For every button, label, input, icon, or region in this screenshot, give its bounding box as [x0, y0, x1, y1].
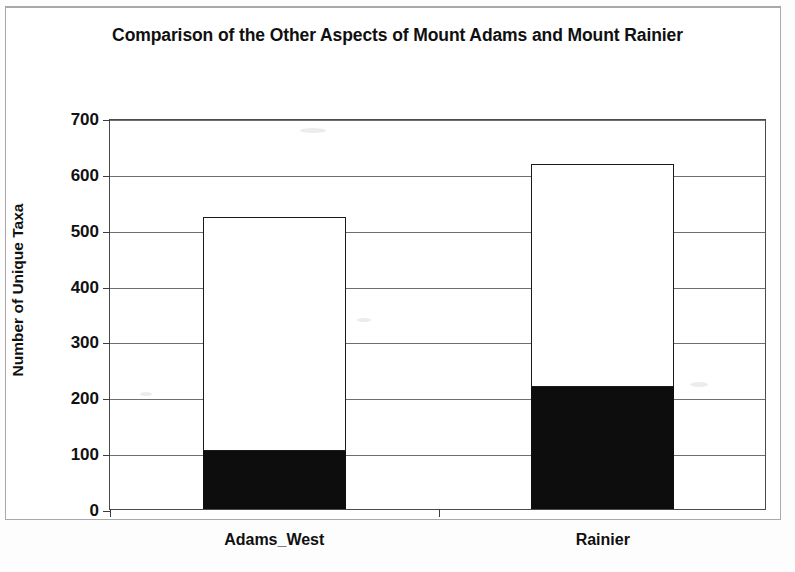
y-tick-label: 100 — [71, 445, 99, 465]
y-tick-mark — [103, 232, 110, 233]
page-title: Comparison of the Other Aspects of Mount… — [40, 25, 755, 46]
y-tick-mark — [103, 176, 110, 177]
y-tick-mark — [103, 343, 110, 344]
y-tick-label: 200 — [71, 389, 99, 409]
y-tick-mark — [103, 120, 110, 121]
bar-segment-lower-segment[interactable] — [531, 387, 674, 509]
y-tick-label: 400 — [71, 278, 99, 298]
y-tick-label: 0 — [90, 501, 99, 521]
y-tick-mark — [103, 399, 110, 400]
x-tick-mark — [439, 509, 440, 517]
y-tick-mark — [103, 288, 110, 289]
plot-area: 0100200300400500600700 Adams_WestRainier — [109, 119, 766, 510]
bar-segment-upper-segment[interactable] — [531, 164, 674, 386]
y-tick-label: 600 — [71, 166, 99, 186]
x-tick-label: Adams_West — [224, 531, 324, 549]
y-tick-label: 700 — [71, 110, 99, 130]
bar-segment-upper-segment[interactable] — [203, 217, 346, 451]
y-tick-mark — [103, 511, 110, 512]
x-tick-mark — [110, 509, 111, 517]
y-axis-title: Number of Unique Taxa — [9, 204, 27, 377]
bar-rainier[interactable] — [531, 118, 674, 509]
y-tick-label: 300 — [71, 333, 99, 353]
x-tick-label: Rainier — [576, 531, 630, 549]
y-tick-label: 500 — [71, 222, 99, 242]
bar-adams_west[interactable] — [203, 118, 346, 509]
chart-figure: Comparison of the Other Aspects of Mount… — [0, 0, 795, 572]
y-tick-mark — [103, 455, 110, 456]
bar-segment-lower-segment[interactable] — [203, 451, 346, 509]
